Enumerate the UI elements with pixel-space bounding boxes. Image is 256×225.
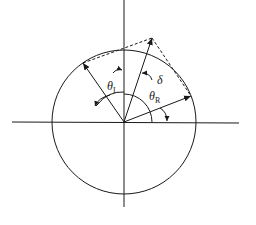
phasor-diagram: θL θR δ bbox=[0, 0, 256, 225]
dashed-line-top bbox=[83, 38, 152, 63]
delta-label: δ bbox=[157, 73, 163, 87]
dashed-line-right bbox=[152, 38, 191, 96]
theta-l-label: θL bbox=[107, 79, 118, 95]
delta-arc bbox=[142, 73, 152, 80]
theta-l-top-arrow bbox=[113, 69, 122, 73]
theta-r-label: θR bbox=[149, 89, 161, 105]
theta-r-arc-arrow bbox=[160, 108, 167, 121]
horizontal-axis bbox=[12, 122, 239, 123]
